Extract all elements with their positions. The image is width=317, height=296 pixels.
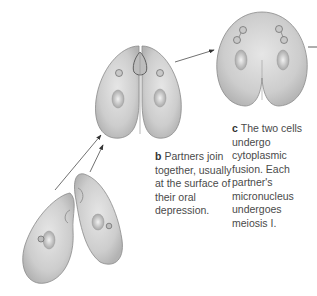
arrow-icon — [90, 145, 103, 172]
caption-c: cThe two cells undergo cytoplasmic fusio… — [232, 122, 317, 230]
micronucleus-icon — [116, 70, 123, 77]
macronucleus-icon — [235, 50, 247, 70]
macronucleus-icon — [43, 231, 55, 249]
micronucleus-icon — [38, 236, 44, 242]
caption-letter: c — [232, 122, 238, 134]
stage-a-cells — [23, 174, 123, 284]
micronucleus-icon — [106, 223, 112, 229]
macronucleus-icon — [277, 50, 289, 70]
macronucleus-icon — [112, 90, 124, 108]
caption-text: The two cells undergo cytoplasmic fusion… — [232, 122, 302, 229]
arrow-icon — [175, 50, 214, 62]
stage-b-cells — [95, 46, 181, 138]
micronucleus-icon — [276, 26, 283, 33]
micronucleus-icon — [157, 70, 164, 77]
micronucleus-icon — [240, 27, 247, 34]
stage-c-cells — [217, 12, 307, 106]
caption-text: Partners join together, usually at the s… — [155, 150, 231, 216]
macronucleus-icon — [92, 214, 104, 230]
caption-letter: b — [155, 150, 161, 162]
caption-b: bPartners join together, usually at the … — [155, 150, 235, 218]
micronucleus-icon — [281, 37, 288, 44]
macronucleus-icon — [154, 89, 166, 107]
micronucleus-icon — [234, 37, 241, 44]
